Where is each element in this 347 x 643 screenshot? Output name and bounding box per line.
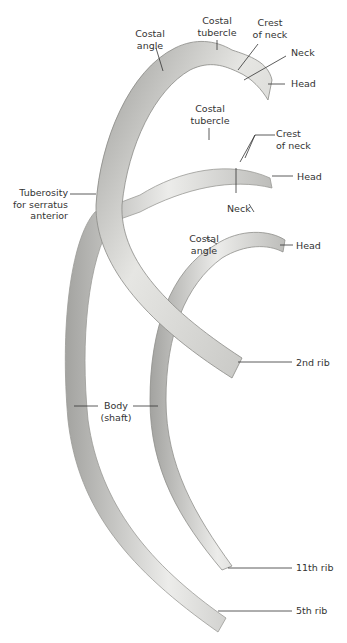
label-line: Costal [128,28,172,40]
label-line: for serratus [0,199,68,211]
label-line: Costal [190,15,244,27]
label-line: Crest [245,17,295,29]
label-line: tubercle [190,27,244,39]
label-line: angle [128,40,172,52]
label-crest-of-neck-top: Crest of neck [245,17,295,40]
label-costal-angle-top: Costal angle [128,28,172,51]
label-line: Body [98,400,134,412]
label-2nd-rib: 2nd rib [296,357,330,369]
label-costal-tubercle-mid: Costal tubercle [184,103,236,126]
label-line: angle [184,245,224,257]
label-line: (shaft) [98,412,134,424]
label-costal-tubercle-top: Costal tubercle [190,15,244,38]
label-line: tubercle [184,115,236,127]
label-head-top: Head [291,78,316,90]
label-head-low: Head [296,240,321,252]
label-crest-of-neck-mid: Crest of neck [276,128,311,151]
label-line: Costal [184,103,236,115]
label-tuberosity: Tuberosity for serratus anterior [0,187,68,222]
eleventh-rib [150,232,285,570]
label-costal-angle-low: Costal angle [184,233,224,256]
label-line: Tuberosity [0,187,68,199]
label-neck-top: Neck [291,47,315,59]
label-line: of neck [276,140,311,152]
label-line: Crest [276,128,311,140]
label-body-shaft: Body (shaft) [98,400,134,423]
label-5th-rib: 5th rib [296,605,327,617]
label-head-mid: Head [297,171,322,183]
label-line: Costal [184,233,224,245]
label-line: anterior [0,210,68,222]
label-line: of neck [245,29,295,41]
label-neck-mid: Neck [227,203,251,215]
rib-illustration [0,0,347,643]
label-11th-rib: 11th rib [296,562,333,574]
